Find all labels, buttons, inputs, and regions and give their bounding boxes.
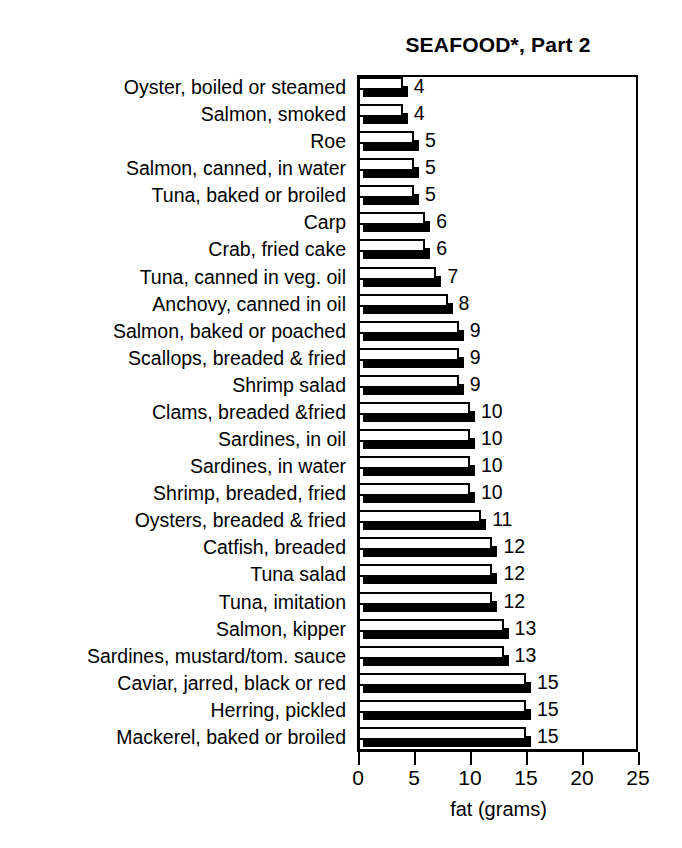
bar-row: Tuna salad12 — [0, 562, 682, 589]
x-tick — [358, 752, 360, 765]
bar-value-label: 7 — [447, 265, 458, 287]
bar — [358, 726, 532, 750]
bar-value-label: 10 — [481, 427, 503, 449]
bar-row: Catfish, breaded12 — [0, 535, 682, 562]
category-label: Shrimp salad — [232, 374, 346, 396]
x-tick — [414, 752, 416, 765]
bar-face — [358, 239, 425, 252]
x-tick-label: 15 — [501, 766, 551, 790]
bar-row: Salmon, canned, in water5 — [0, 156, 682, 183]
bar — [358, 428, 476, 452]
category-label: Tuna, imitation — [219, 591, 346, 613]
bar — [358, 455, 476, 479]
bar-face — [358, 619, 504, 632]
category-label: Salmon, canned, in water — [126, 157, 346, 179]
bar — [358, 509, 487, 533]
category-label: Roe — [310, 130, 346, 152]
bar — [358, 238, 431, 262]
bar-face — [358, 375, 459, 388]
bar-face — [358, 402, 470, 415]
bar-value-label: 9 — [470, 319, 481, 341]
bar-value-label: 12 — [503, 562, 525, 584]
bar-face — [358, 185, 414, 198]
chart-title: SEAFOOD*, Part 2 — [358, 33, 638, 57]
bar-row: Caviar, jarred, black or red15 — [0, 671, 682, 698]
bar-row: Anchovy, canned in oil8 — [0, 292, 682, 319]
bar — [358, 563, 498, 587]
bar-row: Shrimp salad9 — [0, 373, 682, 400]
bar-face — [358, 727, 526, 740]
bar-row: Oyster, boiled or steamed4 — [0, 75, 682, 102]
category-label: Carp — [304, 211, 346, 233]
x-tick — [582, 752, 584, 765]
category-label: Clams, breaded &fried — [152, 401, 346, 423]
chart-page: SEAFOOD*, Part 2 Oyster, boiled or steam… — [0, 0, 682, 848]
category-label: Oysters, breaded & fried — [135, 509, 346, 531]
bar-face — [358, 321, 459, 334]
bar-face — [358, 483, 470, 496]
bar-value-label: 5 — [425, 183, 436, 205]
x-axis-tick-labels: 0510152025 — [0, 766, 682, 792]
bar-face — [358, 646, 504, 659]
x-tick — [526, 752, 528, 765]
bar-face — [358, 267, 436, 280]
bar-row: Salmon, baked or poached9 — [0, 319, 682, 346]
bar-face — [358, 104, 403, 117]
bar-row: Scallops, breaded & fried9 — [0, 346, 682, 373]
bar-value-label: 11 — [492, 508, 512, 530]
bar-row: Herring, pickled15 — [0, 698, 682, 725]
bar — [358, 347, 465, 371]
category-label: Mackerel, baked or broiled — [116, 726, 346, 748]
bar-value-label: 10 — [481, 454, 503, 476]
bar — [358, 536, 498, 560]
category-label: Sardines, mustard/tom. sauce — [87, 645, 346, 667]
bar-value-label: 9 — [470, 346, 481, 368]
bar — [358, 211, 431, 235]
bar-value-label: 15 — [537, 698, 559, 720]
bar-value-label: 15 — [537, 725, 559, 747]
bar-row: Crab, fried cake6 — [0, 237, 682, 264]
x-tick — [470, 752, 472, 765]
bar-row: Tuna, imitation12 — [0, 590, 682, 617]
bar-row: Clams, breaded &fried10 — [0, 400, 682, 427]
bar-row: Shrimp, breaded, fried10 — [0, 481, 682, 508]
x-tick-label: 0 — [333, 766, 383, 790]
bar-row: Sardines, in water10 — [0, 454, 682, 481]
bar-value-label: 6 — [436, 210, 447, 232]
category-label: Herring, pickled — [211, 699, 346, 721]
bar — [358, 293, 454, 317]
bar-row: Tuna, canned in veg. oil7 — [0, 265, 682, 292]
bar-value-label: 5 — [425, 156, 436, 178]
category-label: Tuna, baked or broiled — [152, 184, 346, 206]
bar-face — [358, 510, 481, 523]
bar-value-label: 9 — [470, 373, 481, 395]
bar — [358, 618, 510, 642]
x-axis-ticks — [0, 752, 682, 766]
bar-value-label: 15 — [537, 671, 559, 693]
bar-row: Mackerel, baked or broiled15 — [0, 725, 682, 752]
bar-value-label: 13 — [515, 644, 537, 666]
bar-face — [358, 673, 526, 686]
bar-rows-container: Oyster, boiled or steamed4Salmon, smoked… — [0, 75, 682, 752]
x-tick-label: 25 — [613, 766, 663, 790]
category-label: Anchovy, canned in oil — [152, 293, 346, 315]
bar-face — [358, 158, 414, 171]
category-label: Tuna salad — [250, 563, 346, 585]
bar — [358, 266, 442, 290]
bar-value-label: 5 — [425, 129, 436, 151]
bar-face — [358, 212, 425, 225]
bar-face — [358, 700, 526, 713]
bar — [358, 103, 409, 127]
bar-row: Salmon, kipper13 — [0, 617, 682, 644]
bar-value-label: 4 — [414, 75, 425, 97]
bar-value-label: 4 — [414, 102, 425, 124]
category-label: Crab, fried cake — [208, 238, 346, 260]
bar-value-label: 12 — [503, 590, 525, 612]
bar — [358, 401, 476, 425]
bar-face — [358, 77, 403, 90]
category-label: Caviar, jarred, black or red — [117, 672, 346, 694]
bar — [358, 157, 420, 181]
category-label: Salmon, smoked — [201, 103, 346, 125]
bar-face — [358, 564, 492, 577]
category-label: Sardines, in oil — [218, 428, 346, 450]
